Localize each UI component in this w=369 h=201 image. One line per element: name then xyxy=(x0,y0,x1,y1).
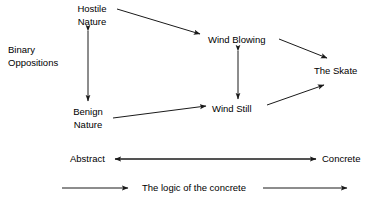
edge-hostile-to-wind-blowing xyxy=(117,9,200,34)
node-logic-of-the-concrete: The logic of the concrete xyxy=(142,181,246,194)
node-hostile-nature-line2: Nature xyxy=(68,15,116,28)
diagram-title-line1: BinaryOppositions xyxy=(8,43,58,69)
diagram-canvas: Hostile Nature BinaryOppositions Benign … xyxy=(0,0,369,201)
edge-wind-still-to-skate xyxy=(267,85,324,105)
node-abstract: Abstract xyxy=(70,152,105,165)
edge-wind-blowing-to-skate xyxy=(279,39,327,58)
node-benign-nature-line1: Benign xyxy=(64,105,112,118)
edge-benign-to-wind-still xyxy=(113,106,206,118)
node-wind-blowing: Wind Blowing xyxy=(208,33,266,46)
arrow-layer xyxy=(0,0,369,201)
node-concrete: Concrete xyxy=(322,152,361,165)
node-wind-still: Wind Still xyxy=(212,102,252,115)
node-benign-nature-line2: Nature xyxy=(64,118,112,131)
node-hostile-nature-line1: Hostile xyxy=(68,2,116,15)
node-the-skate: The Skate xyxy=(314,64,357,77)
